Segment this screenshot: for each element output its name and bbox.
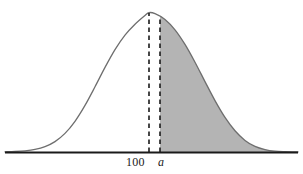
normal-distribution-figure: 100 a: [0, 0, 303, 174]
mean-axis-label: 100: [126, 156, 145, 168]
distribution-chart-svg: [0, 0, 303, 174]
bell-curve-line: [5, 12, 298, 151]
cutoff-axis-label: a: [158, 156, 164, 168]
